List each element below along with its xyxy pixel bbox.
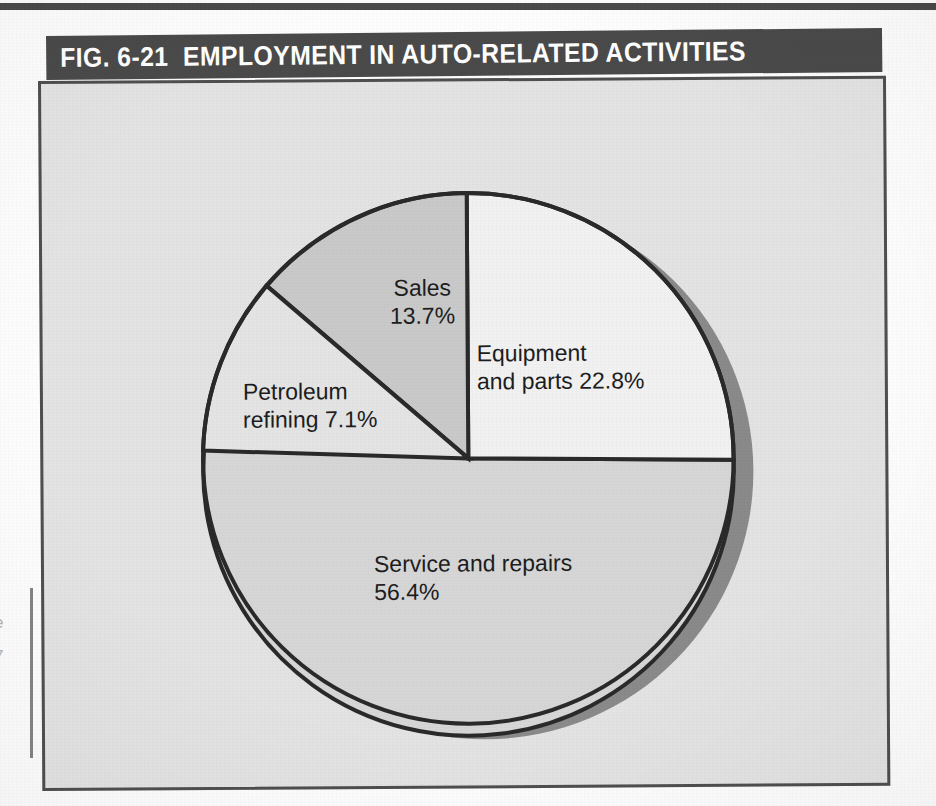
page-margin-text-fragment: e7. <box>0 606 20 708</box>
pie-label-sales: Sales13.7% <box>352 273 492 330</box>
page-left-rule <box>30 588 33 758</box>
figure-title: FIG. 6-21 EMPLOYMENT IN AUTO-RELATED ACT… <box>60 35 746 74</box>
pie-label-equipment-and-parts: Equipmentand parts 22.8% <box>477 338 707 395</box>
pie-slice-equipment-and-parts[interactable] <box>467 191 734 461</box>
pie-chart <box>41 79 887 788</box>
pie-label-petroleum-refining: Petroleumrefining 7.1% <box>243 376 453 433</box>
chart-plot-area: Sales13.7% Equipmentand parts 22.8% Petr… <box>38 76 890 791</box>
scanned-page: e7. FIG. 6-21 EMPLOYMENT IN AUTO-RELATED… <box>0 0 936 806</box>
page-top-rule <box>0 3 936 10</box>
pie-label-service-and-repairs: Service and repairs56.4% <box>374 548 674 606</box>
figure-title-bar: FIG. 6-21 EMPLOYMENT IN AUTO-RELATED ACT… <box>46 28 882 80</box>
